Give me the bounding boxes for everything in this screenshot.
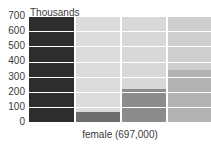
y-tick-100: 100 [8, 102, 25, 112]
gridline-300 [29, 77, 211, 78]
y-axis: 700 600 500 400 300 200 100 0 [0, 16, 27, 123]
y-tick-400: 400 [8, 56, 25, 66]
x-axis-label: female (697,000) [29, 129, 211, 140]
gridline-600 [29, 31, 211, 32]
y-tick-500: 500 [8, 41, 25, 51]
plot-area [29, 16, 211, 123]
y-tick-700: 700 [8, 11, 25, 21]
gridline-200 [29, 92, 211, 93]
bar-3[interactable] [122, 89, 166, 123]
clipped-title-strip [0, 0, 211, 6]
gridline-500 [29, 46, 211, 47]
y-tick-600: 600 [8, 26, 25, 36]
y-tick-200: 200 [8, 87, 25, 97]
chart-container: Thousands 700 600 500 400 300 200 100 0 [0, 0, 211, 147]
y-tick-300: 300 [8, 72, 25, 82]
gridline-0 [29, 122, 211, 123]
y-tick-0: 0 [19, 117, 25, 127]
gridline-700 [29, 16, 211, 17]
gridline-100 [29, 107, 211, 108]
gridline-400 [29, 62, 211, 63]
